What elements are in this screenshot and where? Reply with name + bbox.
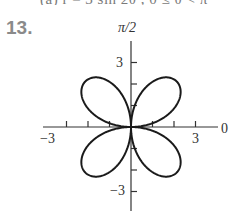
y-tick-label-neg3: −3 [110,183,125,198]
y-tick-label-3: 3 [116,55,123,70]
x-tick-label-neg3: −3 [40,131,55,146]
vertical-axis-label: π/2 [118,20,136,35]
polar-axis-label: 0 [221,121,228,136]
x-tick-label-3: 3 [192,131,199,146]
polar-graph: π/2 0 −3 3 3 −3 [0,0,238,215]
